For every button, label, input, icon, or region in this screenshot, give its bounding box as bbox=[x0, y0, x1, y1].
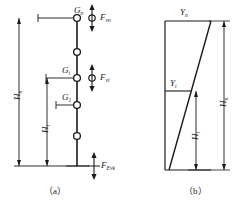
distribution-slope-edge bbox=[169, 21, 211, 170]
mass-node-upper bbox=[74, 49, 81, 56]
panel-a-caption: （a） bbox=[44, 187, 66, 196]
hn-label-a: Hn bbox=[13, 91, 22, 100]
hi-label-a: Hi bbox=[41, 125, 50, 133]
fvn-arrowhead-down bbox=[89, 26, 94, 32]
fevk-label: FEvk bbox=[101, 161, 115, 170]
hi-arrowhead-top-b bbox=[194, 91, 198, 97]
panel-b bbox=[165, 21, 230, 170]
fevk-arrowhead-up bbox=[91, 152, 96, 158]
mass-node-top bbox=[74, 15, 81, 22]
hi-arrowhead-bottom bbox=[45, 160, 49, 166]
hn-label-b: Hn bbox=[219, 98, 228, 107]
fevk-arrowhead-down bbox=[91, 174, 96, 180]
hn-arrowhead-bottom bbox=[17, 160, 21, 166]
fvn-arrowhead-up bbox=[89, 4, 94, 10]
yi-label: Yi bbox=[170, 79, 177, 88]
hi-label-b: Hi bbox=[191, 132, 200, 140]
fvi-label: Fvi bbox=[100, 73, 110, 82]
fvn-label: Fvn bbox=[100, 13, 111, 22]
panel-a bbox=[14, 4, 100, 180]
fvi-arrowhead-up bbox=[89, 64, 94, 70]
hn-arrowhead-bottom-b bbox=[222, 164, 226, 170]
yn-label: Yn bbox=[180, 8, 188, 17]
gn-label: Gn bbox=[74, 6, 83, 15]
mass-node-bottom bbox=[74, 133, 81, 140]
g1-label: G1 bbox=[62, 93, 71, 102]
hn-arrowhead-top-b bbox=[222, 21, 226, 27]
hn-arrowhead-top bbox=[17, 18, 21, 24]
hi-arrowhead-bottom-b bbox=[194, 164, 198, 170]
panel-b-caption: （b） bbox=[184, 187, 207, 196]
mass-node-middle bbox=[74, 75, 81, 82]
mass-node-lower bbox=[74, 102, 81, 109]
fvi-arrowhead-down bbox=[89, 86, 94, 92]
figure-canvas bbox=[0, 0, 242, 207]
gi-label: Gi bbox=[62, 66, 70, 75]
